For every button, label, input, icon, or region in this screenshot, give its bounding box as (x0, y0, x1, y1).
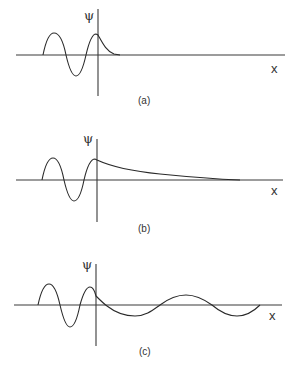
panel-c: ψ x (c) (14, 257, 282, 357)
panel-b: ψ x (b) (16, 131, 283, 234)
x-axis-label-a: x (271, 61, 278, 76)
caption-b: (b) (138, 223, 150, 234)
y-axis-label-a: ψ (84, 8, 94, 23)
panel-a: ψ x (a) (16, 8, 285, 106)
caption-a: (a) (138, 95, 150, 106)
x-axis-label-b: x (271, 183, 278, 198)
caption-c: (c) (139, 346, 151, 357)
y-axis-label-b: ψ (83, 131, 93, 146)
wavefunction-figure: ψ x (a) ψ x (b) ψ x (c) (0, 0, 290, 365)
x-axis-label-c: x (269, 308, 276, 323)
y-axis-label-c: ψ (82, 257, 92, 272)
